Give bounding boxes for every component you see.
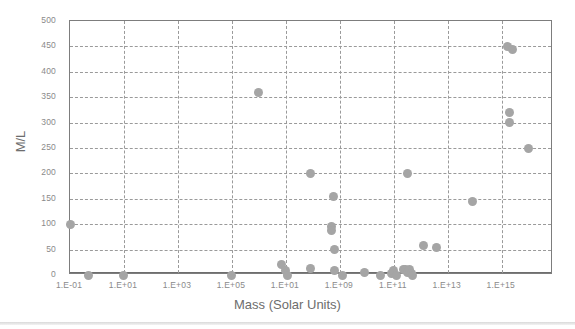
y-tick-label: 400 xyxy=(16,66,56,76)
y-tick-label: 50 xyxy=(16,244,56,254)
gridline-vertical xyxy=(340,21,341,273)
y-tick-label: 200 xyxy=(16,167,56,177)
gridline-horizontal xyxy=(70,97,551,98)
gridline-vertical xyxy=(232,21,233,273)
gridline-vertical xyxy=(124,21,125,273)
gridline-horizontal xyxy=(70,72,551,73)
y-tick-label: 250 xyxy=(16,142,56,152)
data-point xyxy=(403,169,412,178)
footer-divider xyxy=(0,322,575,325)
plot-area xyxy=(69,20,552,274)
gridline-vertical xyxy=(286,21,287,273)
data-point xyxy=(283,271,292,280)
data-point xyxy=(330,245,339,254)
data-point xyxy=(254,88,263,97)
gridline-vertical xyxy=(448,21,449,273)
data-point xyxy=(468,197,477,206)
data-point xyxy=(408,271,417,280)
data-point xyxy=(338,271,347,280)
gridline-vertical xyxy=(502,21,503,273)
gridline-vertical xyxy=(178,21,179,273)
gridline-horizontal xyxy=(70,46,551,47)
data-point xyxy=(66,220,75,229)
data-point xyxy=(84,271,93,280)
y-tick-label: 300 xyxy=(16,117,56,127)
data-point xyxy=(419,241,428,250)
data-point xyxy=(508,45,517,54)
data-point xyxy=(376,271,385,280)
data-point xyxy=(524,144,533,153)
y-tick-label: 350 xyxy=(16,91,56,101)
y-tick-label: 450 xyxy=(16,40,56,50)
data-point xyxy=(505,118,514,127)
data-point xyxy=(306,169,315,178)
gridline-horizontal xyxy=(70,123,551,124)
y-axis-tick-labels: 050100150200250300350400450500 xyxy=(0,20,64,274)
data-point xyxy=(329,192,338,201)
y-tick-label: 150 xyxy=(16,193,56,203)
data-point xyxy=(306,264,315,273)
gridline-horizontal xyxy=(70,250,551,251)
gridline-horizontal xyxy=(70,148,551,149)
x-tick-label: 1.E+13 xyxy=(433,280,461,290)
gridline-horizontal xyxy=(70,199,551,200)
x-tick-label: 1.E+05 xyxy=(217,280,245,290)
data-point xyxy=(327,226,336,235)
y-tick-label: 100 xyxy=(16,218,56,228)
data-point xyxy=(119,271,128,280)
y-tick-label: 0 xyxy=(16,269,56,279)
x-tick-label: 1.E+09 xyxy=(325,280,353,290)
x-tick-label: 1.E+01 xyxy=(109,280,137,290)
x-tick-label: 1.E+11 xyxy=(379,280,407,290)
data-point xyxy=(505,108,514,117)
x-tick-label: 1.E-01 xyxy=(56,280,82,290)
y-tick-label: 500 xyxy=(16,15,56,25)
x-tick-label: 1.E+03 xyxy=(163,280,191,290)
gridline-horizontal xyxy=(70,224,551,225)
x-axis-tick-labels: 1.E-011.E+011.E+031.E+051.E+011.E+091.E+… xyxy=(0,280,575,294)
x-axis-title: Mass (Solar Units) xyxy=(0,297,575,312)
data-point xyxy=(227,271,236,280)
scatter-chart: M/L 050100150200250300350400450500 1.E-0… xyxy=(0,0,575,329)
x-tick-label: 1.E+15 xyxy=(487,280,515,290)
data-point xyxy=(360,268,369,277)
x-tick-label: 1.E+01 xyxy=(271,280,299,290)
gridline-vertical xyxy=(394,21,395,273)
